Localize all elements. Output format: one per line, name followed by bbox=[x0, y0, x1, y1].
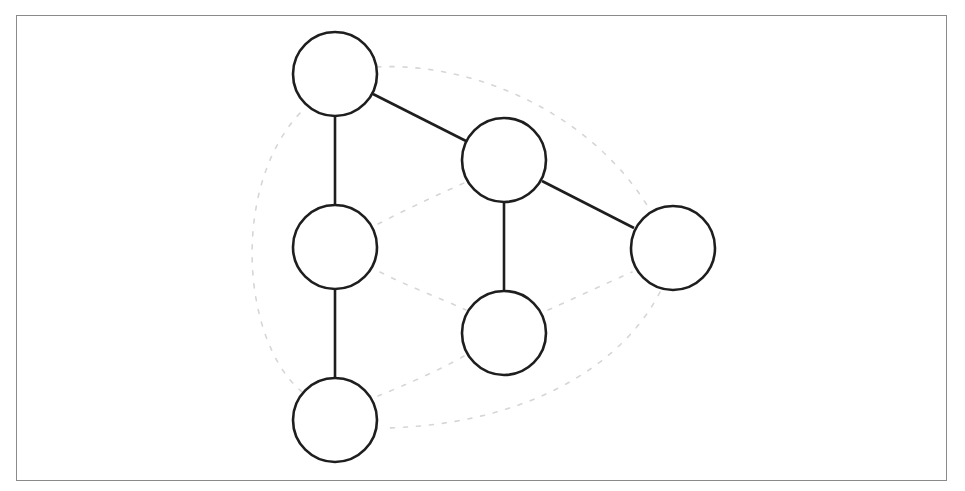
contour-inner-bottom-center-to-right bbox=[548, 272, 632, 310]
node-left-child bbox=[293, 205, 377, 289]
node-right-child-bottom bbox=[462, 291, 546, 375]
contour-inner-left-to-bottom-center bbox=[380, 272, 466, 310]
node-right-child-right bbox=[631, 206, 715, 290]
contour-inner-bottom-center-to-bottom-left bbox=[378, 356, 464, 396]
node-right-child bbox=[462, 118, 546, 202]
edge-root-right-child bbox=[373, 94, 466, 141]
node-root bbox=[293, 32, 377, 116]
edge-right-child-right bbox=[542, 181, 634, 228]
contour-inner-left-to-center bbox=[378, 183, 464, 224]
node-left-grandchild bbox=[293, 378, 377, 462]
tree-diagram bbox=[0, 0, 965, 491]
